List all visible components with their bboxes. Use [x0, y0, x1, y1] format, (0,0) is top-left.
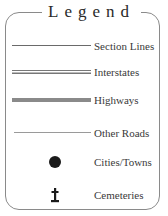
legend-item-cemeteries: Cemeteries — [0, 186, 168, 206]
section-line-icon — [12, 45, 91, 46]
legend-item-cities-towns: Cities/Towns — [0, 153, 168, 173]
legend-label: Section Lines — [94, 39, 154, 53]
legend-item-highways: Highways — [0, 90, 168, 110]
highway-line-icon — [12, 98, 91, 102]
legend-title: Legend — [42, 2, 141, 22]
other-road-line-icon — [14, 132, 91, 133]
legend-item-other-roads: Other Roads — [0, 123, 168, 143]
legend-label: Cemeteries — [94, 188, 143, 202]
legend-label: Cities/Towns — [94, 155, 152, 169]
legend-item-interstates: Interstates — [0, 62, 168, 82]
cemetery-cross-icon — [49, 187, 61, 203]
legend-label: Highways — [94, 93, 139, 107]
legend-label: Interstates — [94, 65, 139, 79]
legend-label: Other Roads — [94, 126, 149, 140]
legend-item-section-lines: Section Lines — [0, 36, 168, 56]
interstate-line-icon — [12, 70, 91, 74]
city-dot-icon — [49, 156, 61, 168]
